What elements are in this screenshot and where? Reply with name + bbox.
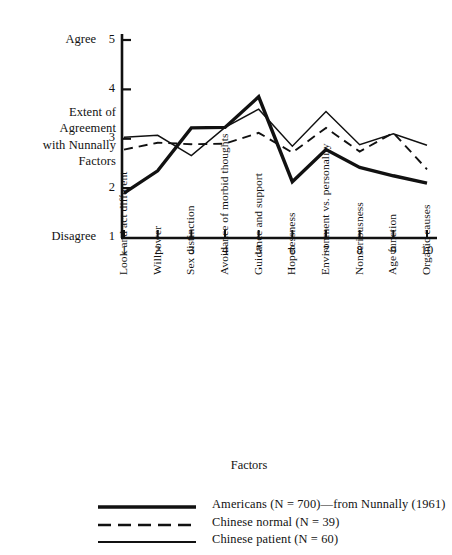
x-category-label: Guidance and support <box>252 173 264 275</box>
legend-key-thick-solid <box>96 498 200 516</box>
x-category-label: Willpower <box>151 226 163 275</box>
series-lines <box>124 97 427 193</box>
x-axis-title-text: Factors <box>231 458 267 472</box>
chart-figure: Agree Disagree Extent of Agreement with … <box>0 0 452 555</box>
legend-label-chinese-normal: Chinese normal (N = 39) <box>212 515 339 530</box>
y-tick-label: 4 <box>101 81 115 96</box>
y-axis-title-line-1: Extent of <box>18 104 116 120</box>
x-category-label: Nonseriousness <box>353 202 365 275</box>
y-tick-label: 3 <box>101 130 115 145</box>
legend-item: Chinese normal (N = 39) <box>96 516 446 534</box>
x-category-label: Avoidance of morbid thoughts <box>218 134 230 275</box>
legend-item: Americans (N = 700)—from Nunnally (1961) <box>96 498 446 516</box>
x-category-label: Environment vs. personality <box>319 144 331 275</box>
y-axis-title-line-4: Factors <box>18 153 116 169</box>
y-tick-label: 2 <box>101 180 115 195</box>
y-tick-label: 5 <box>101 32 115 47</box>
y-axis-low-label: Disagree <box>14 229 96 244</box>
y-tick-label: 1 <box>101 229 115 244</box>
y-axis-ticks <box>122 40 131 188</box>
x-category-label: Organic causes <box>420 205 432 275</box>
x-axis-title: Factors <box>0 458 452 473</box>
x-category-label: Sex distinction <box>184 205 196 275</box>
x-category-label: Hopelessness <box>285 212 297 275</box>
legend-key-dashed <box>96 516 200 534</box>
x-category-label: Look and act different <box>117 171 129 275</box>
series-line <box>124 97 427 193</box>
chart-legend: Americans (N = 700)—from Nunnally (1961)… <box>96 498 446 551</box>
legend-item: Chinese patient (N = 60) <box>96 533 446 551</box>
axis-lines <box>121 34 437 238</box>
legend-label-chinese-patient: Chinese patient (N = 60) <box>212 532 338 547</box>
y-axis-high-label: Agree <box>18 32 96 47</box>
series-line <box>124 109 427 155</box>
legend-label-americans: Americans (N = 700)—from Nunnally (1961) <box>212 497 446 512</box>
legend-key-thin-solid <box>96 533 200 551</box>
series-line <box>124 128 427 169</box>
x-category-label: Age function <box>386 214 398 275</box>
